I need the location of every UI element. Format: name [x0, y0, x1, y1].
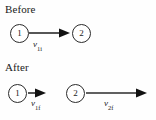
- section-heading-after: After: [5, 61, 29, 73]
- ball-before-2-label: 2: [79, 29, 84, 38]
- ball-before-2: 2: [72, 24, 91, 43]
- ball-before-1-label: 1: [17, 29, 22, 38]
- velocity-arrow-before-v1i: [29, 27, 70, 39]
- ball-before-1: 1: [10, 24, 29, 43]
- velocity-subscript-1f: 1f: [35, 104, 40, 111]
- velocity-label-v1i: v1i: [33, 40, 42, 49]
- collision-diagram: Before 1 2 v1i After 1 2 v1f v2f: [0, 0, 156, 120]
- velocity-subscript-1i: 1i: [37, 45, 42, 52]
- velocity-subscript-2f: 2f: [108, 104, 113, 111]
- ball-after-2: 2: [66, 84, 85, 103]
- velocity-label-v1f: v1f: [31, 99, 40, 108]
- ball-after-2-label: 2: [73, 89, 78, 98]
- velocity-label-v2f: v2f: [104, 99, 113, 108]
- ball-after-1: 1: [8, 84, 27, 103]
- section-heading-before: Before: [5, 3, 36, 15]
- velocity-arrow-after-v2f: [86, 87, 147, 99]
- ball-after-1-label: 1: [15, 89, 20, 98]
